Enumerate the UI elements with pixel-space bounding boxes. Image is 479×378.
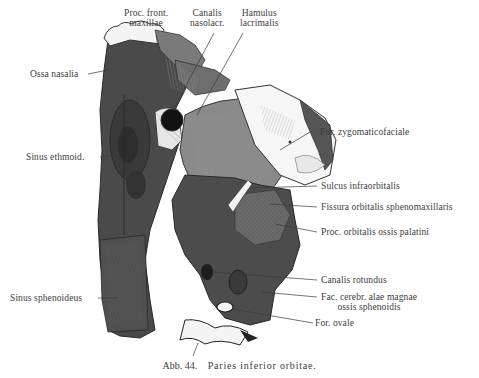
label-proc-front-maxillae-line2: maxillae <box>124 18 168 28</box>
label-sulcus-infraorbitalis: Sulcus infraorbitalis <box>321 181 400 191</box>
label-canalis-rotundus: Canalis rotundus <box>321 275 387 285</box>
label-canalis-nasolacr-line1: Canalis <box>193 8 222 18</box>
label-hamulus-lacrimalis: Hamulus lacrimalis <box>240 8 278 28</box>
label-fissura-orbitalis: Fissura orbitalis sphenomaxillaris <box>321 202 453 212</box>
label-hamulus-lacrimalis-line1: Hamulus <box>242 8 277 18</box>
label-fac-cerebr-line1: Fac. cerebr. alae magnae <box>321 292 417 302</box>
sphenoid-region <box>172 175 300 345</box>
canalis-nasolacrimalis-shape <box>155 108 183 150</box>
label-proc-front-maxillae-line1: Proc. front. <box>124 8 168 18</box>
anatomical-illustration <box>0 0 479 378</box>
label-canalis-nasolacr-line2: nasolacr. <box>190 18 224 28</box>
label-canalis-nasolacr: Canalis nasolacr. <box>190 8 224 28</box>
label-proc-orbitalis: Proc. orbitalis ossis palatini <box>321 227 429 237</box>
caption-title: Paries inferior orbitae. <box>208 360 317 371</box>
figure-caption: Abb. 44. Paries inferior orbitae. <box>0 360 479 371</box>
label-sinus-sphenoideus: Sinus sphenoideus <box>10 293 82 303</box>
label-fac-cerebr-line2: ossis sphenoidis <box>321 302 417 312</box>
label-hamulus-lacrimalis-line2: lacrimalis <box>240 18 278 28</box>
label-proc-front-maxillae: Proc. front. maxillae <box>124 8 168 28</box>
label-sinus-ethmoid: Sinus ethmoid. <box>26 152 84 162</box>
label-for-zygomaticofaciale: For. zygomaticofaciale <box>320 127 409 137</box>
label-fac-cerebr: Fac. cerebr. alae magnae ossis sphenoidi… <box>321 292 417 312</box>
label-for-ovale: For. ovale <box>315 318 354 328</box>
caption-number: Abb. 44. <box>162 360 197 371</box>
label-ossa-nasalia: Ossa nasalia <box>30 69 78 79</box>
